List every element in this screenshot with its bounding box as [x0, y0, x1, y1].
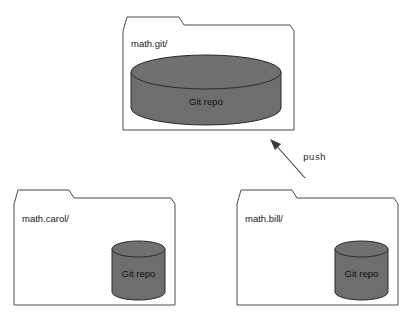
edge-push: push	[270, 139, 326, 178]
cylinder-math-carol: Git repo	[112, 241, 165, 300]
folder-math-bill[interactable]: math.bill/ Git repo	[237, 190, 398, 305]
cylinder-math-bill-label: Git repo	[345, 268, 379, 279]
folder-math-bill-label: math.bill/	[245, 213, 283, 224]
cylinder-math-bill-top	[335, 241, 388, 257]
push-edge-label: push	[303, 152, 326, 163]
cylinder-math-git: Git repo	[131, 55, 281, 125]
cylinder-math-git-label: Git repo	[189, 96, 223, 107]
cylinder-math-bill: Git repo	[335, 241, 388, 300]
cylinder-math-git-top	[131, 55, 281, 89]
cylinder-math-carol-top	[112, 241, 165, 257]
folder-math-carol[interactable]: math.carol/ Git repo	[14, 190, 175, 305]
folder-math-git-label: math.git/	[131, 38, 168, 49]
push-arrow-line	[274, 143, 305, 178]
diagram-canvas: math.git/ Git repo push math.carol/ Git …	[0, 0, 412, 322]
folder-math-git[interactable]: math.git/ Git repo	[123, 17, 294, 130]
folder-math-carol-label: math.carol/	[22, 213, 69, 224]
cylinder-math-carol-label: Git repo	[122, 268, 156, 279]
